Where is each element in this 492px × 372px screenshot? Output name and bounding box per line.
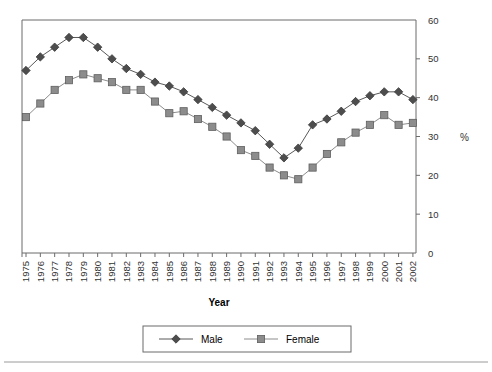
legend-item-female-marker — [257, 335, 264, 342]
y-axis-title: % — [460, 132, 469, 143]
data-point-male-1979 — [79, 33, 87, 41]
data-point-female-1986 — [180, 108, 187, 115]
data-point-female-1998 — [352, 129, 359, 136]
x-tick-label-1978: 1978 — [63, 261, 74, 282]
data-point-female-1984 — [151, 98, 158, 105]
data-point-female-1982 — [123, 86, 130, 93]
data-point-male-1990 — [237, 119, 245, 127]
data-point-female-1992 — [266, 164, 273, 171]
data-point-female-1979 — [80, 71, 87, 78]
data-point-male-1985 — [165, 82, 173, 90]
x-axis-title: Year — [208, 297, 229, 308]
legend-item-female-label: Female — [286, 334, 320, 345]
data-point-female-1977 — [51, 86, 58, 93]
data-point-female-1989 — [223, 133, 230, 140]
x-tick-label-1986: 1986 — [178, 261, 189, 282]
data-point-male-2001 — [394, 88, 402, 96]
x-tick-label-1991: 1991 — [250, 261, 261, 282]
x-tick-label-2001: 2001 — [393, 261, 404, 282]
data-point-male-1983 — [136, 70, 144, 78]
data-point-female-1995 — [309, 164, 316, 171]
x-tick-label-1981: 1981 — [106, 261, 117, 282]
data-point-male-1989 — [222, 111, 230, 119]
data-point-female-1997 — [338, 139, 345, 146]
data-point-female-1991 — [252, 152, 259, 159]
data-point-female-1975 — [22, 113, 29, 120]
data-point-male-1996 — [323, 115, 331, 123]
data-point-female-1990 — [237, 146, 244, 153]
x-tick-label-1995: 1995 — [307, 261, 318, 282]
data-point-female-2000 — [381, 112, 388, 119]
x-tick-label-1993: 1993 — [278, 261, 289, 282]
data-point-female-1980 — [94, 75, 101, 82]
data-point-female-1985 — [166, 110, 173, 117]
x-tick-label-1992: 1992 — [264, 261, 275, 282]
data-point-male-1997 — [337, 107, 345, 115]
x-tick-label-1996: 1996 — [321, 261, 332, 282]
x-tick-label-1984: 1984 — [149, 261, 160, 282]
x-tick-label-1998: 1998 — [350, 261, 361, 282]
x-tick-label-1985: 1985 — [164, 261, 175, 282]
y-tick-label-50: 50 — [428, 53, 439, 64]
x-tick-label-1990: 1990 — [235, 261, 246, 282]
data-point-male-1994 — [294, 144, 302, 152]
x-tick-label-2002: 2002 — [407, 261, 418, 282]
series-female — [22, 71, 416, 183]
data-point-female-1987 — [194, 115, 201, 122]
data-point-male-1998 — [351, 97, 359, 105]
data-point-male-2000 — [380, 88, 388, 96]
data-point-female-1988 — [209, 123, 216, 130]
x-tick-label-1988: 1988 — [207, 261, 218, 282]
line-chart-canvas: 0102030405060%19751976197719781979198019… — [0, 0, 492, 372]
data-point-male-1982 — [122, 64, 130, 72]
data-point-male-1977 — [50, 43, 58, 51]
data-point-male-1978 — [65, 33, 73, 41]
x-tick-label-1997: 1997 — [336, 261, 347, 282]
x-tick-label-1975: 1975 — [20, 261, 31, 282]
data-point-female-1996 — [323, 150, 330, 157]
series-line-female — [26, 74, 413, 179]
y-tick-label-10: 10 — [428, 209, 439, 220]
data-point-female-1983 — [137, 86, 144, 93]
legend-item-male-label: Male — [201, 334, 223, 345]
data-point-male-1999 — [366, 92, 374, 100]
chart-figure: 0102030405060%19751976197719781979198019… — [0, 0, 492, 372]
data-point-male-1986 — [179, 88, 187, 96]
data-point-male-1988 — [208, 103, 216, 111]
x-tick-label-1977: 1977 — [49, 261, 60, 282]
data-point-female-1999 — [366, 121, 373, 128]
data-point-female-1993 — [280, 172, 287, 179]
x-tick-label-1987: 1987 — [192, 261, 203, 282]
series-male — [22, 33, 417, 162]
data-point-female-1978 — [65, 77, 72, 84]
data-point-male-1987 — [194, 95, 202, 103]
x-tick-label-1980: 1980 — [92, 261, 103, 282]
data-point-female-1994 — [295, 176, 302, 183]
x-tick-label-2000: 2000 — [379, 261, 390, 282]
data-point-female-1976 — [37, 100, 44, 107]
y-tick-label-40: 40 — [428, 92, 439, 103]
x-tick-label-1982: 1982 — [121, 261, 132, 282]
data-point-female-1981 — [108, 79, 115, 86]
x-tick-label-1999: 1999 — [364, 261, 375, 282]
data-point-female-2001 — [395, 121, 402, 128]
data-point-female-2002 — [409, 119, 416, 126]
y-tick-label-30: 30 — [428, 131, 439, 142]
x-tick-label-1976: 1976 — [35, 261, 46, 282]
x-tick-label-1979: 1979 — [78, 261, 89, 282]
y-tick-label-0: 0 — [428, 248, 433, 259]
x-tick-label-1989: 1989 — [221, 261, 232, 282]
y-tick-label-20: 20 — [428, 170, 439, 181]
y-tick-label-60: 60 — [428, 15, 439, 26]
data-point-male-1984 — [151, 78, 159, 86]
data-point-male-1995 — [308, 121, 316, 129]
x-tick-label-1994: 1994 — [293, 261, 304, 282]
x-tick-label-1983: 1983 — [135, 261, 146, 282]
